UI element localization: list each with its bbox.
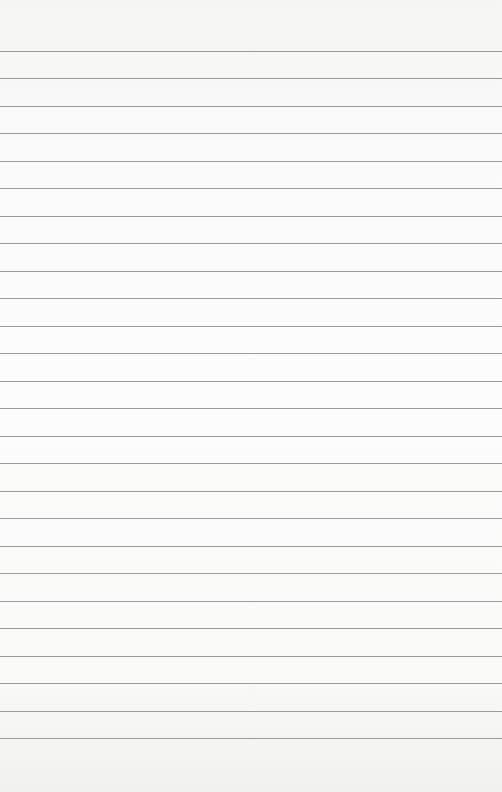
- lined-paper-sheet: [0, 0, 502, 792]
- ruled-line: [0, 683, 502, 684]
- ruled-line: [0, 216, 502, 217]
- ruled-line: [0, 381, 502, 382]
- ruled-line: [0, 546, 502, 547]
- ruled-line: [0, 188, 502, 189]
- ruled-line: [0, 161, 502, 162]
- ruled-line: [0, 518, 502, 519]
- ruled-line: [0, 491, 502, 492]
- ruled-line: [0, 106, 502, 107]
- ruled-line: [0, 51, 502, 52]
- ruled-line: [0, 243, 502, 244]
- ruled-line: [0, 463, 502, 464]
- ruled-line: [0, 326, 502, 327]
- ruled-line: [0, 601, 502, 602]
- ruled-line: [0, 628, 502, 629]
- ruled-line: [0, 656, 502, 657]
- ruled-line: [0, 436, 502, 437]
- ruled-line: [0, 573, 502, 574]
- ruled-line: [0, 78, 502, 79]
- ruled-line: [0, 298, 502, 299]
- ruled-line: [0, 738, 502, 739]
- ruled-line: [0, 408, 502, 409]
- ruled-line: [0, 353, 502, 354]
- ruled-line: [0, 711, 502, 712]
- ruled-line: [0, 271, 502, 272]
- ruled-line: [0, 133, 502, 134]
